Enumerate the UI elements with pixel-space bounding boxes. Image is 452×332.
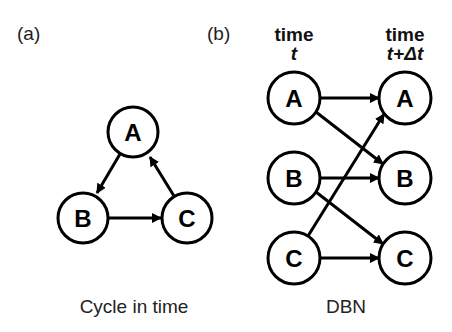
diagram-canvas: (a) A B C Cycle in time (b) time t time … [0,0,452,332]
node-a-t: A [268,72,320,124]
node-c: C [162,193,212,243]
node-b: B [58,193,108,243]
node-a-t-label: A [285,85,302,112]
column-t-subheading: t [291,43,298,64]
edge-a-to-b [97,154,120,193]
node-c-t-dt: C [379,232,431,284]
panel-b: (b) time t time t+Δt A B [207,23,431,317]
node-b-t-label: B [285,165,302,192]
node-b-label: B [74,205,91,232]
node-a-t-dt-label: A [396,85,413,112]
edge-c-to-a [150,157,174,196]
panel-a-caption: Cycle in time [80,296,189,317]
node-a-t-dt: A [379,72,431,124]
node-a-label: A [124,119,141,146]
column-t-dt-subheading: t+Δt [387,43,424,64]
column-t-dt-heading: time [385,24,424,45]
node-c-label: C [178,205,195,232]
node-b-t-dt-label: B [396,165,413,192]
node-b-t-dt: B [379,152,431,204]
node-c-t: C [268,232,320,284]
node-c-t-label: C [285,245,302,272]
node-b-t: B [268,152,320,204]
column-t-heading: time [274,24,313,45]
edge-bt-to-ctdt [316,192,383,244]
node-c-t-dt-label: C [396,245,413,272]
node-a: A [108,107,158,157]
panel-a-label: (a) [17,23,40,44]
panel-b-caption: DBN [326,296,366,317]
panel-b-label: (b) [207,23,230,44]
edge-at-to-btdt [316,112,383,164]
panel-a: (a) A B C Cycle in time [17,23,212,317]
